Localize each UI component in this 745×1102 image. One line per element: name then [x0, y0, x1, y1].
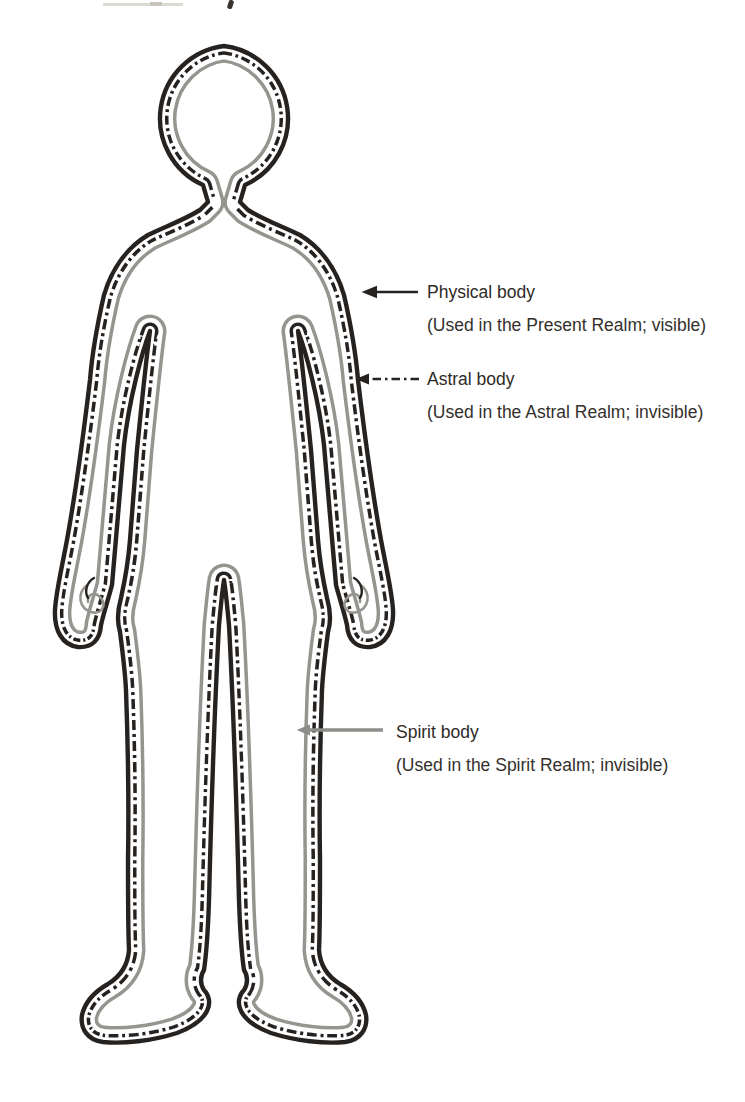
spirit-body-description: (Used in the Spirit Realm; invisible)	[396, 755, 668, 776]
physical-body-description: (Used in the Present Realm; visible)	[427, 315, 706, 336]
spirit-arrow	[297, 724, 384, 735]
physical-arrowhead-icon	[362, 286, 378, 298]
spirit-body-sublabel: (Used in the Spirit Realm; invisible)	[396, 755, 668, 776]
astral-body-label: Astral body	[427, 369, 515, 390]
page: Physical body (Used in the Present Realm…	[0, 0, 745, 1102]
physical-body-label: Physical body	[427, 282, 535, 303]
astral-body-description: (Used in the Astral Realm; invisible)	[427, 402, 703, 423]
physical-body-title: Physical body	[427, 282, 535, 303]
body-diagram	[0, 0, 745, 1102]
astral-body-sublabel: (Used in the Astral Realm; invisible)	[427, 402, 703, 423]
physical-body-sublabel: (Used in the Present Realm; visible)	[427, 315, 706, 336]
spirit-body-label: Spirit body	[396, 722, 479, 743]
astral-arrow	[356, 374, 420, 385]
physical-arrow	[362, 286, 419, 298]
astral-body-title: Astral body	[427, 369, 515, 390]
spirit-body-title: Spirit body	[396, 722, 479, 743]
